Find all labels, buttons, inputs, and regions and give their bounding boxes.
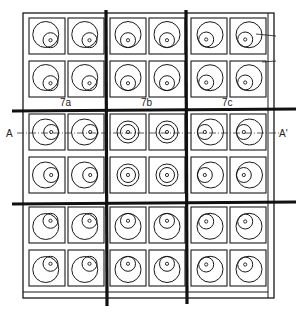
cell (230, 250, 266, 286)
cell (68, 250, 104, 286)
center-dot (126, 219, 129, 222)
cell-square (191, 250, 227, 286)
outer-circle (115, 22, 141, 48)
cell-square (68, 18, 104, 54)
outer-circle (33, 119, 59, 145)
inner-circle (238, 75, 253, 90)
cell (29, 61, 65, 97)
cell (191, 207, 227, 243)
center-dot (88, 82, 91, 85)
inner-circle (160, 76, 175, 91)
cell (230, 61, 266, 97)
section-label-end: A' (279, 128, 288, 139)
inner-circle (236, 168, 251, 183)
inner-circle (43, 76, 58, 91)
cell-square (191, 18, 227, 54)
center-dot (165, 219, 168, 222)
center-dot (88, 262, 91, 265)
center-dot (126, 173, 129, 176)
inner-circle (160, 168, 175, 183)
outer-circle (115, 257, 141, 283)
outer-circle (33, 162, 59, 188)
cell (29, 207, 65, 243)
block-label-7a: 7a (60, 97, 72, 108)
inner-circle (160, 213, 175, 228)
inner-circle (83, 125, 98, 140)
cell-square (29, 250, 65, 286)
outer-circle (198, 162, 224, 188)
cell (191, 61, 227, 97)
inner-circle (160, 256, 175, 271)
block-label-7b: 7b (141, 97, 153, 108)
outer-circle (115, 214, 141, 240)
outer-circle (237, 119, 263, 145)
inner-circle (121, 256, 136, 271)
cell (110, 61, 146, 97)
inner-circle (82, 213, 97, 228)
inner-circle (197, 125, 212, 140)
center-dot (205, 38, 208, 41)
inner-circle (160, 125, 175, 140)
inner-circle (44, 168, 59, 183)
block-divider-horizontal-1 (12, 109, 296, 111)
center-dot (165, 173, 168, 176)
cell (191, 157, 227, 193)
inner-circle (43, 33, 58, 48)
cell-square (230, 250, 266, 286)
cell (149, 61, 185, 97)
inner-circle (238, 214, 253, 229)
cell (149, 157, 185, 193)
cell-square (29, 207, 65, 243)
cell-array-diagram: A A' 7a 7b 7c (0, 0, 296, 312)
center-dot (49, 262, 52, 265)
outer-circle (154, 65, 180, 91)
cell (110, 114, 146, 150)
cell (230, 157, 266, 193)
center-dot (242, 173, 245, 176)
inner-circle (121, 213, 136, 228)
outer-circle (72, 119, 98, 145)
cell-square (29, 18, 65, 54)
center-dot (49, 219, 52, 222)
inner-circle (197, 168, 212, 183)
cell (191, 114, 227, 150)
center-dot (244, 38, 247, 41)
inner-circle (121, 125, 136, 140)
cell (68, 157, 104, 193)
cell (110, 207, 146, 243)
cell-square (230, 207, 266, 243)
center-dot (205, 220, 208, 223)
cell (149, 114, 185, 150)
cell-square (29, 61, 65, 97)
center-dot (126, 82, 129, 85)
center-dot (50, 173, 53, 176)
cell-square (149, 114, 185, 150)
cell-square (110, 157, 146, 193)
center-dot (89, 173, 92, 176)
block-label-7c: 7c (222, 97, 233, 108)
block-divider-vertical-1 (106, 10, 107, 306)
inner-circle (121, 33, 136, 48)
center-dot (165, 82, 168, 85)
inner-circle (238, 257, 253, 272)
cell (149, 207, 185, 243)
inner-circle (238, 32, 253, 47)
center-dot (88, 219, 91, 222)
cell (230, 114, 266, 150)
block-divider-vertical-2 (186, 10, 187, 304)
cell-square (191, 61, 227, 97)
inner-circle (199, 32, 214, 47)
cell (29, 18, 65, 54)
cell (29, 250, 65, 286)
cell (149, 18, 185, 54)
cell (191, 18, 227, 54)
cell (230, 207, 266, 243)
outer-circle (154, 214, 180, 240)
outer-circle (198, 119, 224, 145)
outer-circle (154, 257, 180, 283)
center-dot (205, 263, 208, 266)
center-dot (49, 39, 52, 42)
inner-circle (199, 257, 214, 272)
outer-circle (72, 162, 98, 188)
inner-circle (199, 75, 214, 90)
